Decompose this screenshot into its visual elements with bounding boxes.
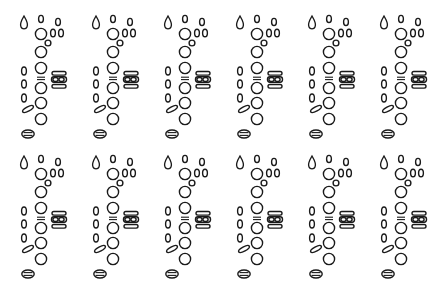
trill-small-circle[interactable]: [45, 180, 51, 186]
top-small-key[interactable]: [327, 15, 332, 22]
left-hand-ring-3[interactable]: [323, 202, 334, 213]
left-hand-ring-3[interactable]: [323, 62, 334, 73]
left-pinky-slant-key[interactable]: [166, 244, 179, 254]
left-hand-ring-2[interactable]: [179, 46, 190, 57]
side-small-key-a[interactable]: [195, 29, 200, 37]
left-hand-ring-2[interactable]: [107, 46, 118, 57]
left-pinky-slant-key[interactable]: [310, 244, 323, 254]
left-hand-ring-2[interactable]: [35, 186, 46, 197]
left-hand-ring-1[interactable]: [179, 28, 190, 39]
thumb-hole-key[interactable]: [238, 270, 250, 278]
top-small-key[interactable]: [255, 155, 260, 162]
side-small-key-b[interactable]: [275, 169, 280, 177]
right-cluster-top-key[interactable]: [340, 72, 354, 76]
right-hand-ring-2[interactable]: [323, 237, 334, 248]
left-pinky-key-3[interactable]: [310, 94, 315, 102]
left-pinky-key-2[interactable]: [382, 220, 387, 228]
trill-small-circle[interactable]: [261, 40, 267, 46]
right-cluster-bottom-key[interactable]: [412, 225, 426, 229]
right-cluster-mid-left-key[interactable]: [341, 218, 346, 222]
right-cluster-top-key[interactable]: [268, 212, 282, 216]
register-teardrop-key[interactable]: [165, 16, 172, 29]
top-right-small-key[interactable]: [344, 18, 349, 25]
right-cluster-mid-right-key[interactable]: [275, 218, 280, 222]
left-pinky-key-3[interactable]: [238, 234, 243, 242]
side-small-key-b[interactable]: [131, 169, 136, 177]
right-cluster-mid-left-key[interactable]: [341, 78, 346, 82]
right-cluster-bottom-key[interactable]: [52, 85, 66, 89]
side-small-key-a[interactable]: [339, 29, 344, 37]
right-cluster-mid-right-key[interactable]: [275, 78, 280, 82]
left-pinky-key-3[interactable]: [382, 234, 387, 242]
side-small-key-a[interactable]: [51, 169, 56, 177]
register-teardrop-key[interactable]: [381, 16, 388, 29]
right-hand-ring-3[interactable]: [395, 253, 406, 264]
side-small-key-b[interactable]: [347, 169, 352, 177]
side-small-key-a[interactable]: [123, 169, 128, 177]
top-small-key[interactable]: [327, 155, 332, 162]
left-pinky-slant-key[interactable]: [166, 104, 179, 114]
right-hand-ring-2[interactable]: [35, 97, 46, 108]
right-hand-ring-3[interactable]: [251, 113, 262, 124]
left-hand-ring-2[interactable]: [251, 46, 262, 57]
right-cluster-top-key[interactable]: [124, 72, 138, 76]
right-cluster-bottom-key[interactable]: [340, 225, 354, 229]
left-pinky-key-1[interactable]: [94, 207, 99, 215]
left-hand-ring-3[interactable]: [251, 62, 262, 73]
register-teardrop-key[interactable]: [93, 16, 100, 29]
right-cluster-mid-left-key[interactable]: [413, 218, 418, 222]
thumb-hole-key[interactable]: [94, 130, 106, 138]
right-cluster-mid-left-key[interactable]: [125, 218, 130, 222]
left-pinky-slant-key[interactable]: [382, 104, 395, 114]
right-hand-ring-2[interactable]: [107, 237, 118, 248]
right-hand-ring-3[interactable]: [35, 253, 46, 264]
left-pinky-key-1[interactable]: [310, 67, 315, 75]
register-teardrop-key[interactable]: [21, 156, 28, 169]
left-hand-ring-2[interactable]: [179, 186, 190, 197]
top-small-key[interactable]: [111, 15, 116, 22]
side-small-key-b[interactable]: [419, 29, 424, 37]
register-teardrop-key[interactable]: [21, 16, 28, 29]
left-hand-ring-3[interactable]: [35, 202, 46, 213]
trill-small-circle[interactable]: [405, 40, 411, 46]
right-hand-ring-1[interactable]: [251, 82, 262, 93]
left-hand-ring-3[interactable]: [395, 202, 406, 213]
left-hand-ring-2[interactable]: [395, 46, 406, 57]
right-hand-ring-1[interactable]: [179, 222, 190, 233]
left-hand-ring-1[interactable]: [179, 168, 190, 179]
right-cluster-mid-left-key[interactable]: [53, 218, 58, 222]
right-cluster-mid-left-key[interactable]: [269, 78, 274, 82]
side-small-key-a[interactable]: [411, 169, 416, 177]
left-hand-ring-2[interactable]: [395, 186, 406, 197]
thumb-hole-key[interactable]: [310, 270, 322, 278]
left-pinky-key-3[interactable]: [22, 234, 27, 242]
left-pinky-key-1[interactable]: [22, 67, 27, 75]
right-cluster-mid-right-key[interactable]: [419, 218, 424, 222]
left-hand-ring-1[interactable]: [395, 168, 406, 179]
right-hand-ring-1[interactable]: [323, 222, 334, 233]
left-pinky-key-2[interactable]: [94, 220, 99, 228]
left-pinky-key-3[interactable]: [22, 94, 27, 102]
right-hand-ring-3[interactable]: [107, 113, 118, 124]
right-hand-ring-1[interactable]: [107, 222, 118, 233]
left-hand-ring-1[interactable]: [323, 168, 334, 179]
right-cluster-bottom-key[interactable]: [412, 85, 426, 89]
left-pinky-key-2[interactable]: [310, 220, 315, 228]
thumb-hole-key[interactable]: [22, 270, 34, 278]
right-hand-ring-3[interactable]: [395, 113, 406, 124]
top-right-small-key[interactable]: [416, 18, 421, 25]
left-pinky-key-2[interactable]: [382, 80, 387, 88]
left-pinky-key-1[interactable]: [382, 67, 387, 75]
left-hand-ring-2[interactable]: [323, 186, 334, 197]
right-cluster-mid-right-key[interactable]: [419, 78, 424, 82]
right-cluster-mid-right-key[interactable]: [347, 218, 352, 222]
trill-small-circle[interactable]: [117, 40, 123, 46]
left-pinky-key-1[interactable]: [22, 207, 27, 215]
right-cluster-top-key[interactable]: [52, 72, 66, 76]
left-pinky-key-1[interactable]: [94, 67, 99, 75]
top-small-key[interactable]: [111, 155, 116, 162]
left-hand-ring-3[interactable]: [395, 62, 406, 73]
trill-small-circle[interactable]: [261, 180, 267, 186]
right-cluster-mid-right-key[interactable]: [203, 218, 208, 222]
left-hand-ring-2[interactable]: [107, 186, 118, 197]
